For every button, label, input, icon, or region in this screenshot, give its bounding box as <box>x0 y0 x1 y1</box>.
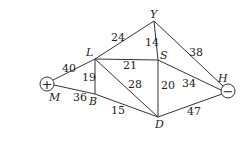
graph-diagram: + − M L B Y S D H 40 36 19 24 21 28 15 1… <box>0 0 247 142</box>
node-label-M: M <box>48 91 61 104</box>
terminal-plus-M: + <box>40 77 54 92</box>
node-label-L: L <box>85 46 93 59</box>
node-label-D: D <box>154 118 164 131</box>
node-label-H: H <box>217 72 228 85</box>
weight-M-L: 40 <box>62 62 76 75</box>
weight-L-Y: 24 <box>111 31 125 44</box>
weight-D-H: 47 <box>187 105 201 118</box>
node-label-Y: Y <box>150 8 159 21</box>
weight-Y-H: 38 <box>189 46 203 59</box>
plus-icon: + <box>42 77 53 92</box>
weight-L-B: 19 <box>82 71 96 84</box>
weight-B-D: 15 <box>111 104 125 117</box>
terminal-minus-H: − <box>221 84 235 99</box>
weight-L-D: 28 <box>128 78 142 91</box>
node-label-S: S <box>160 49 168 62</box>
node-label-B: B <box>88 95 97 108</box>
minus-icon: − <box>223 84 234 99</box>
weight-S-H: 34 <box>182 77 196 90</box>
weight-S-D: 20 <box>161 79 175 92</box>
weight-M-B: 36 <box>73 91 87 104</box>
weight-L-S: 21 <box>123 59 137 72</box>
weight-Y-S: 14 <box>145 36 159 49</box>
edge-B-D <box>95 94 158 117</box>
